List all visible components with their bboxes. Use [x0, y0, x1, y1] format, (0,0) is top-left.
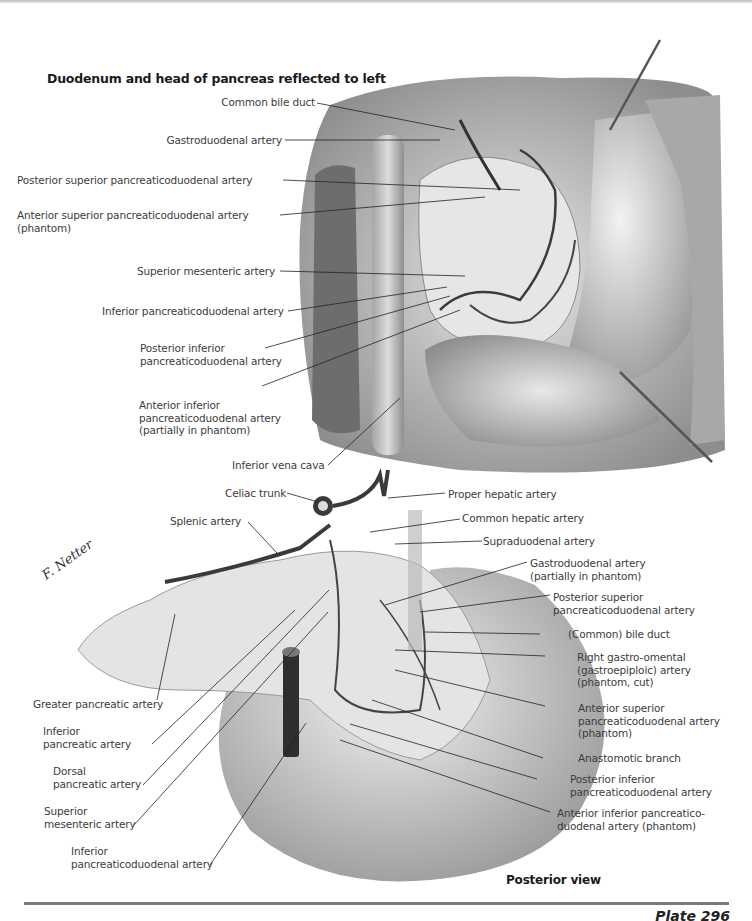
label-inferior-vena-cava: Inferior vena cava: [232, 459, 324, 472]
top-panel-title: Duodenum and head of pancreas reflected …: [47, 71, 386, 86]
bottom-posterior-illustration: [78, 470, 605, 881]
label-gastroduodenal-artery: Gastroduodenal artery: [166, 134, 282, 147]
label-splenic-artery: Splenic artery: [170, 515, 241, 528]
label-gastroduodenal-artery-bottom: Gastroduodenal artery (partially in phan…: [530, 557, 646, 582]
label-posterior-inferior-pd-artery-bottom: Posterior inferior pancreaticoduodenal a…: [570, 773, 712, 798]
label-posterior-superior-pd-artery: Posterior superior pancreaticoduodenal a…: [17, 174, 252, 187]
label-supraduodenal-artery: Supraduodenal artery: [483, 535, 595, 548]
label-anterior-superior-pd-artery: Anterior superior pancreaticoduodenal ar…: [17, 209, 249, 234]
label-greater-pancreatic-artery: Greater pancreatic artery: [33, 698, 163, 711]
label-common-bile-duct-bottom: (Common) bile duct: [568, 628, 670, 641]
label-superior-mesenteric-artery: Superior mesenteric artery: [137, 265, 275, 278]
label-inferior-pancreatic-artery: Inferior pancreatic artery: [43, 725, 131, 750]
top-dissection-illustration: [299, 40, 725, 473]
label-posterior-inferior-pd-artery: Posterior inferior pancreaticoduodenal a…: [140, 342, 282, 367]
label-dorsal-pancreatic-artery: Dorsal pancreatic artery: [53, 765, 141, 790]
label-right-gastro-omental-artery: Right gastro-omental (gastroepiploic) ar…: [577, 651, 691, 689]
label-proper-hepatic-artery: Proper hepatic artery: [448, 488, 557, 501]
label-anastomotic-branch: Anastomotic branch: [578, 752, 681, 765]
label-inferior-pd-artery-bottom: Inferior pancreaticoduodenal artery: [71, 845, 213, 870]
label-anterior-inferior-pd-artery-bottom: Anterior inferior pancreatico- duodenal …: [557, 807, 705, 832]
label-posterior-superior-pd-artery-bottom: Posterior superior pancreaticoduodenal a…: [553, 591, 695, 616]
view-label: Posterior view: [506, 873, 601, 887]
label-inferior-pd-artery: Inferior pancreaticoduodenal artery: [102, 305, 284, 318]
footer-rule: [24, 902, 729, 905]
plate-number: Plate 296: [655, 908, 730, 921]
label-anterior-superior-pd-artery-bottom: Anterior superior pancreaticoduodenal ar…: [578, 702, 720, 740]
label-common-bile-duct: Common bile duct: [221, 96, 315, 109]
label-celiac-trunk: Celiac trunk: [225, 487, 286, 500]
label-anterior-inferior-pd-artery: Anterior inferior pancreaticoduodenal ar…: [139, 399, 281, 437]
label-superior-mesenteric-artery-bottom: Superior mesenteric artery: [44, 805, 136, 830]
label-common-hepatic-artery: Common hepatic artery: [462, 512, 584, 525]
